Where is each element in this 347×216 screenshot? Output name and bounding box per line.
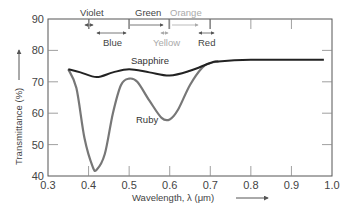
band-violet-label: Violet: [80, 7, 104, 18]
y-tick-label: 90: [32, 13, 44, 25]
ruby-label: Ruby: [136, 114, 158, 125]
x-axis-title: Wavelength, λ (μm): [132, 192, 214, 203]
y-tick-label: 70: [32, 76, 44, 88]
band-green-label: Green: [135, 7, 161, 18]
y-tick-label: 60: [32, 107, 44, 119]
sapphire-label: Sapphire: [131, 55, 169, 66]
plot-frame: [48, 19, 332, 176]
band-yellow-label: Yellow: [153, 37, 180, 48]
band-orange-label: Orange: [170, 7, 202, 18]
x-tick-label: 0.8: [243, 179, 258, 191]
transmittance-chart: 405060708090 0.30.40.50.60.70.80.91.0 Wa…: [0, 0, 347, 216]
x-tick-label: 0.5: [121, 179, 136, 191]
y-tick-label: 50: [32, 139, 44, 151]
x-tick-label: 0.7: [203, 179, 218, 191]
y-axis: 405060708090: [32, 13, 332, 182]
y-tick-label: 80: [32, 44, 44, 56]
x-tick-label: 1.0: [324, 179, 339, 191]
x-tick-label: 0.9: [284, 179, 299, 191]
y-axis-title: Transmittance (%): [13, 88, 24, 165]
x-tick-label: 0.4: [81, 179, 96, 191]
band-red-label: Red: [198, 37, 215, 48]
band-blue-label: Blue: [103, 37, 122, 48]
color-bands: Violet Blue Green Yellow Orange Red: [80, 7, 215, 48]
x-axis: 0.30.40.50.60.70.80.91.0: [40, 19, 339, 191]
x-tick-label: 0.3: [40, 179, 55, 191]
x-tick-label: 0.6: [162, 179, 177, 191]
